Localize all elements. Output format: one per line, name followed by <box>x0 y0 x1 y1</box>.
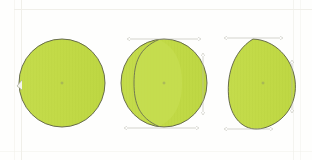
scanned-drawing-sheet <box>0 0 312 160</box>
technical-drawing-canvas <box>0 0 312 160</box>
figure-2-rotated-view <box>121 39 207 128</box>
figure-1-front-view-circle <box>17 39 105 127</box>
figure-3-foreshortened-view <box>227 38 295 129</box>
